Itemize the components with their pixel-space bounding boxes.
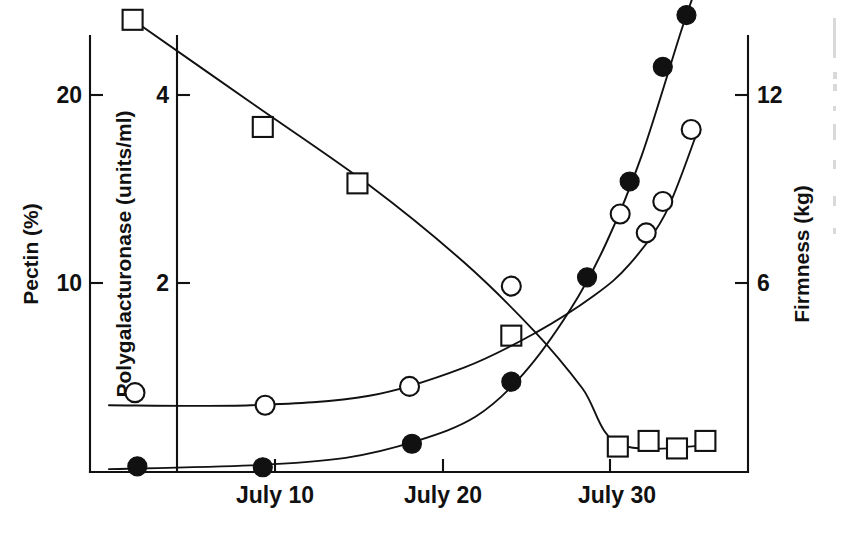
data-point-filled-circle	[620, 172, 639, 191]
data-point-filled-circle	[128, 457, 147, 476]
pectin-tick-10: 10	[56, 270, 82, 296]
date-tick-july-20: July 20	[404, 482, 482, 508]
data-point-open-circle	[611, 205, 630, 224]
date-tick-july-30: July 30	[578, 482, 656, 508]
date-axis: July 10 July 20 July 30	[90, 459, 748, 508]
series-layer	[109, 0, 715, 477]
pectin-axis: 20 10 Pectin (%)	[19, 36, 103, 472]
data-point-open-square	[667, 438, 687, 458]
data-point-open-square	[123, 10, 143, 30]
data-point-filled-circle	[677, 6, 696, 25]
data-point-open-square	[695, 431, 715, 451]
data-point-filled-circle	[653, 57, 672, 76]
pg-tick-4: 4	[156, 82, 169, 108]
trend-curve-pectin	[133, 20, 715, 449]
date-tick-july-10: July 10	[236, 482, 314, 508]
data-point-open-square	[253, 117, 273, 137]
series-firmness	[109, 120, 701, 415]
data-point-open-square	[639, 431, 659, 451]
data-point-open-circle	[502, 277, 521, 296]
data-point-open-square	[347, 173, 367, 193]
data-point-open-circle	[400, 377, 419, 396]
scan-edge-artifact	[833, 18, 837, 234]
data-point-filled-circle	[578, 268, 597, 287]
data-point-open-circle	[682, 120, 701, 139]
trend-curve-firmness	[109, 136, 696, 406]
series-pectin	[123, 10, 716, 459]
trend-curve-polygalacturonase	[109, 0, 698, 469]
pg-axis-title: Polygalacturonase (units/ml)	[112, 110, 135, 397]
data-point-open-circle	[653, 192, 672, 211]
data-point-filled-circle	[402, 434, 421, 453]
pg-tick-2: 2	[156, 270, 169, 296]
firmness-tick-12: 12	[757, 82, 783, 108]
firmness-axis: 12 6 Firmness (kg)	[735, 36, 813, 472]
data-point-open-circle	[637, 223, 656, 242]
chart-figure: 20 10 Pectin (%) 4 2 Polygalacturonase (…	[0, 0, 848, 541]
chart-canvas: 20 10 Pectin (%) 4 2 Polygalacturonase (…	[0, 0, 848, 541]
firmness-axis-title: Firmness (kg)	[790, 185, 813, 323]
data-point-open-square	[608, 437, 628, 457]
data-point-open-circle	[256, 396, 275, 415]
pectin-axis-title: Pectin (%)	[19, 203, 42, 305]
data-point-filled-circle	[253, 458, 272, 477]
data-point-filled-circle	[502, 372, 521, 391]
firmness-tick-6: 6	[757, 270, 770, 296]
pectin-tick-20: 20	[56, 82, 82, 108]
data-point-open-circle	[125, 383, 144, 402]
